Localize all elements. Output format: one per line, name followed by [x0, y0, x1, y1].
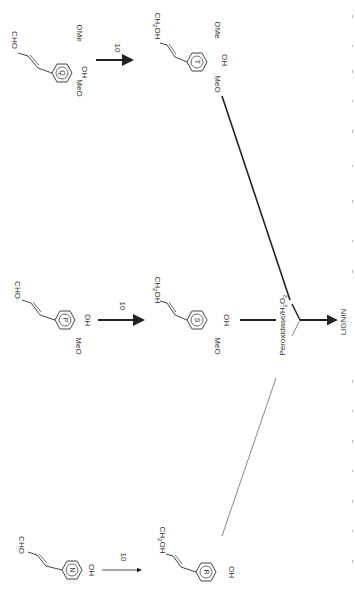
svg-text:P: P — [62, 318, 69, 323]
svg-text:CHO: CHO — [17, 536, 26, 554]
svg-text:OH: OH — [227, 566, 236, 578]
pathway-diagram: Q CHO OMe OH MeO 10 T CH2OH OMe OH MeO P… — [0, 0, 355, 613]
chain-ch2oh-t: CH2OH — [152, 13, 162, 40]
ring-label-t: T — [194, 60, 201, 65]
reaction-arrow-bottom: 10 — [102, 553, 141, 570]
enzyme-label: Peroxidase/H2O2 — [278, 294, 288, 356]
compound-r: R CH2OH OH — [157, 527, 236, 581]
svg-text:OH: OH — [220, 54, 229, 66]
reaction-arrow-top: 10 — [96, 44, 132, 60]
svg-text:OMe: OMe — [213, 21, 222, 39]
svg-text:MeO: MeO — [74, 337, 83, 354]
svg-text:OH: OH — [222, 314, 231, 326]
svg-text:OH: OH — [87, 564, 96, 576]
svg-text:CH2OH: CH2OH — [157, 527, 167, 554]
svg-text:R: R — [203, 569, 210, 574]
ring-label-q: Q — [58, 70, 66, 76]
svg-text:MeO: MeO — [213, 75, 222, 92]
caption-marks — [352, 15, 353, 563]
product-label: LIGNIN — [339, 308, 348, 335]
substituent-ome: OMe — [75, 24, 84, 42]
substituent-oh: OH — [80, 66, 89, 78]
compound-p: P CHO OH MeO — [13, 281, 92, 355]
compound-s: S CH2OH OH MeO — [152, 277, 231, 355]
svg-text:10: 10 — [118, 302, 127, 311]
compound-q: Q CHO OMe OH MeO — [10, 24, 89, 96]
substituent-meo: MeO — [75, 79, 84, 96]
svg-text:OH: OH — [83, 314, 92, 326]
svg-text:CHO: CHO — [13, 281, 22, 299]
svg-text:10: 10 — [119, 553, 128, 562]
svg-text:N: N — [69, 567, 76, 572]
reaction-arrow-middle: 10 — [98, 302, 143, 320]
svg-text:CH2OH: CH2OH — [152, 277, 162, 304]
compound-t: T CH2OH OMe OH MeO — [152, 13, 229, 93]
step-label: 10 — [113, 44, 122, 53]
compound-n: N CHO OH — [17, 536, 96, 579]
svg-text:S: S — [194, 318, 201, 323]
chain-cho-q: CHO — [10, 31, 19, 49]
svg-text:MeO: MeO — [213, 337, 222, 354]
